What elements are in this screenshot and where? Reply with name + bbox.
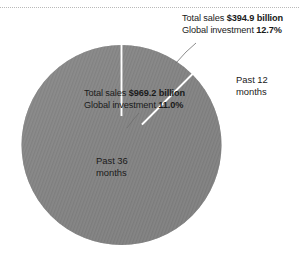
outer-ring-period-label: Past 12 months — [236, 74, 268, 98]
outer-ring-period-line-1: Past 12 — [236, 74, 268, 86]
outer-total-sales-value: $394.9 billion — [227, 13, 283, 23]
inner-ring-past-36-months — [0, 0, 299, 268]
inner-callout-line-2: Global investment 11.0% — [84, 100, 185, 112]
inner-global-investment-value: 11.0% — [158, 100, 183, 110]
donut-chart-figure: Total sales $394.9 billion Global invest… — [0, 0, 299, 268]
outer-ring-callout: Total sales $394.9 billion Global invest… — [182, 13, 283, 36]
donut-rings-graphic — [0, 0, 299, 268]
inner-ring-callout: Total sales $969.2 billion Global invest… — [84, 88, 185, 111]
outer-callout-line-2: Global investment 12.7% — [182, 25, 283, 37]
outer-callout-line-1: Total sales $394.9 billion — [182, 13, 283, 25]
inner-ring-period-line-2: months — [96, 167, 128, 179]
outer-ring-period-line-2: months — [236, 86, 268, 98]
outer-global-investment-label: Global investment — [182, 25, 256, 35]
inner-ring-period-line-1: Past 36 — [96, 155, 128, 167]
inner-total-sales-label: Total sales — [84, 88, 129, 98]
inner-global-investment-label: Global investment — [84, 100, 158, 110]
outer-total-sales-label: Total sales — [182, 13, 227, 23]
inner-total-sales-value: $969.2 billion — [129, 88, 185, 98]
outer-global-investment-value: 12.7% — [256, 25, 282, 35]
inner-ring-period-label: Past 36 months — [96, 155, 128, 179]
inner-callout-line-1: Total sales $969.2 billion — [84, 88, 185, 100]
